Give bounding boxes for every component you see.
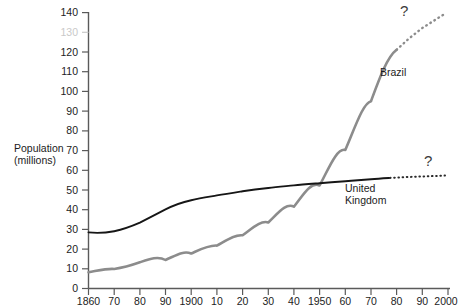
question-mark-brazil: ?	[400, 2, 408, 19]
x-tick-label-1880: 80	[134, 295, 146, 307]
y-tick-label-100: 100	[60, 85, 78, 97]
population-line-chart: 0 10 20 30 40 50 60 70 80 90 100 110 120…	[0, 0, 460, 308]
series-label-brazil: Brazil	[380, 66, 406, 78]
uk-line-guide	[89, 204, 192, 233]
x-tick-label-1890: 90	[160, 295, 172, 307]
x-tick-label-1910: 10	[211, 295, 223, 307]
x-tick-label-1860: 1860	[77, 295, 101, 307]
y-axis-title-line2: (millions)	[14, 154, 56, 166]
y-tick-label-20: 20	[66, 243, 78, 255]
x-tick-label-1870: 70	[108, 295, 120, 307]
y-tick-label-0: 0	[72, 282, 78, 294]
series-label-united-kingdom-line1: United	[345, 182, 376, 194]
y-axis-ticks	[82, 13, 89, 289]
y-tick-label-120: 120	[60, 46, 78, 58]
y-tick-label-40: 40	[66, 203, 78, 215]
y-tick-label-140: 140	[60, 6, 78, 18]
y-tick-label-70: 70	[66, 144, 78, 156]
y-tick-label-30: 30	[66, 223, 78, 235]
uk-projection-line	[390, 176, 445, 178]
x-tick-label-1930: 30	[262, 295, 274, 307]
x-tick-label-1980: 80	[391, 295, 403, 307]
x-tick-label-1950: 1950	[308, 295, 332, 307]
x-tick-label-1900: 1900	[180, 295, 204, 307]
x-axis-tick-labels: 1860 70 80 90 1900 10 20 30 40 1950 60 7…	[77, 295, 458, 307]
y-axis-title: Population (millions)	[14, 142, 64, 166]
y-tick-label-50: 50	[66, 184, 78, 196]
y-tick-label-60: 60	[66, 164, 78, 176]
x-tick-label-1960: 60	[339, 295, 351, 307]
x-tick-label-1970: 70	[365, 295, 377, 307]
y-tick-label-90: 90	[66, 105, 78, 117]
series-label-united-kingdom-line2: Kingdom	[345, 194, 387, 206]
question-mark-united-kingdom: ?	[424, 152, 432, 169]
x-tick-label-1920: 20	[237, 295, 249, 307]
y-tick-label-110: 110	[61, 65, 78, 77]
x-tick-label-1940: 40	[288, 295, 300, 307]
y-tick-label-80: 80	[66, 124, 78, 136]
brazil-line	[89, 50, 397, 272]
x-tick-label-2000: 2000	[434, 295, 458, 307]
y-axis-title-line1: Population	[14, 142, 64, 154]
x-tick-label-1990: 90	[416, 295, 428, 307]
y-tick-label-10: 10	[66, 262, 78, 274]
y-tick-label-130: 130	[60, 26, 78, 38]
chart-page: 0 10 20 30 40 50 60 70 80 90 100 110 120…	[0, 0, 460, 308]
